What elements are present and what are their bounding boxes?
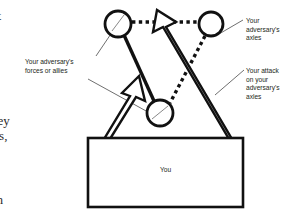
you-box-label: You <box>88 166 243 173</box>
page-text-fragment-1: lt <box>0 8 1 24</box>
label-adversary-forces: Your adversary's forces or allies <box>25 58 105 75</box>
page-text-fragment-3: res, <box>0 128 7 144</box>
page-text-fragment-2: key <box>0 113 10 129</box>
adversary-node-top-right <box>199 12 223 36</box>
figure-canvas: Your adversary's forces or allies Your a… <box>0 0 295 215</box>
ally-arrow-short <box>101 76 145 139</box>
adversary-node-top-left <box>105 11 131 37</box>
label-adversary-axles: Your adversary's axles <box>246 17 294 43</box>
page-text-fragment-4: m <box>0 192 3 208</box>
leader-line-your-attack <box>215 70 244 95</box>
label-your-attack: Your attack on your adversary's axles <box>246 67 295 101</box>
